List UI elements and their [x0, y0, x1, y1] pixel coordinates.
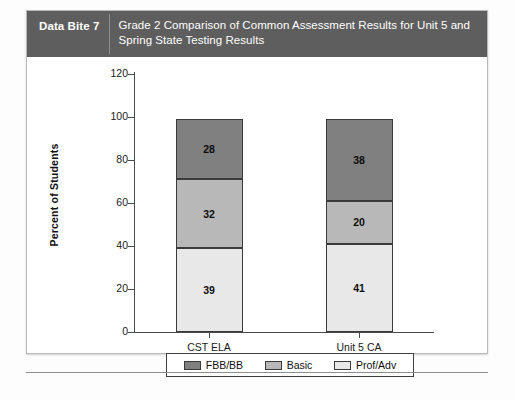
legend-swatch: [184, 361, 201, 370]
scanned-page: Data Bite 7 Grade 2 Comparison of Common…: [0, 0, 515, 400]
bar-value-label: 38: [353, 154, 365, 166]
y-tick-mark: [128, 74, 134, 75]
y-tick-label: 20: [68, 282, 128, 294]
bar-stack[interactable]: 412038: [326, 119, 393, 332]
y-tick-label-wrap: 40: [64, 246, 128, 247]
y-tick-mark: [128, 117, 134, 118]
legend-swatch: [265, 361, 282, 370]
y-tick-label-wrap: 60: [64, 203, 128, 204]
bar-value-label: 41: [353, 282, 365, 294]
y-tick-mark: [128, 246, 134, 247]
y-axis-title: Percent of Students: [48, 125, 60, 265]
legend-item[interactable]: FBB/BB: [184, 359, 243, 371]
y-tick-label-wrap: 20: [64, 289, 128, 290]
chart-plot-area: Percent of Students 020406080100120 3932…: [27, 57, 489, 355]
x-axis-line: [134, 332, 434, 333]
bar-segment[interactable]: 41: [326, 244, 393, 332]
bar-stack[interactable]: 393228: [176, 119, 243, 332]
bar-segment[interactable]: 20: [326, 201, 393, 244]
bar-segment[interactable]: 28: [176, 119, 243, 179]
y-tick-label: 40: [68, 239, 128, 251]
bar-value-label: 28: [203, 143, 215, 155]
chart-legend: FBB/BBBasicProf/Adv: [166, 353, 414, 377]
legend-label: Prof/Adv: [356, 359, 396, 371]
y-tick-label-wrap: 100: [64, 117, 128, 118]
y-tick-label: 120: [68, 67, 128, 79]
y-tick-label: 80: [68, 153, 128, 165]
figure-title: Grade 2 Comparison of Common Assessment …: [110, 11, 487, 48]
figure-card: Data Bite 7 Grade 2 Comparison of Common…: [26, 10, 488, 354]
legend-label: Basic: [287, 359, 313, 371]
bar-value-label: 39: [203, 284, 215, 296]
bar-value-label: 32: [203, 208, 215, 220]
x-axis-category-label: Unit 5 CA: [299, 341, 419, 353]
y-tick-mark: [128, 289, 134, 290]
bar-value-label: 20: [353, 216, 365, 228]
y-axis-line: [134, 72, 135, 333]
y-tick-label: 0: [68, 325, 128, 337]
y-tick-label-wrap: 0: [64, 332, 128, 333]
y-tick-label: 100: [68, 110, 128, 122]
x-axis-category-label: CST ELA: [149, 341, 269, 353]
x-tick-mark: [359, 333, 360, 338]
legend-item[interactable]: Prof/Adv: [334, 359, 396, 371]
y-tick-mark: [128, 203, 134, 204]
legend-swatch: [334, 361, 351, 370]
bar-segment[interactable]: 38: [326, 119, 393, 201]
data-bite-tag: Data Bite 7: [27, 11, 109, 33]
bar-segment[interactable]: 32: [176, 179, 243, 248]
legend-item[interactable]: Basic: [265, 359, 313, 371]
page-rule: [26, 372, 488, 373]
x-tick-mark: [209, 333, 210, 338]
bar-segment[interactable]: 39: [176, 248, 243, 332]
y-tick-label-wrap: 80: [64, 160, 128, 161]
legend-label: FBB/BB: [206, 359, 243, 371]
y-tick-label-wrap: 120: [64, 74, 128, 75]
y-tick-label: 60: [68, 196, 128, 208]
y-tick-mark: [128, 332, 134, 333]
figure-header: Data Bite 7 Grade 2 Comparison of Common…: [27, 11, 487, 57]
y-tick-mark: [128, 160, 134, 161]
